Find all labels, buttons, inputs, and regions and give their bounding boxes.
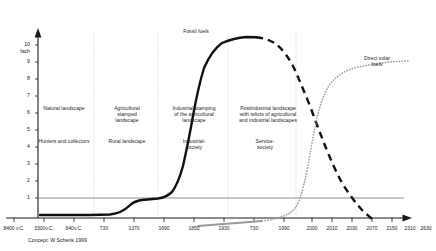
y-tick-label-3: 3 bbox=[16, 160, 30, 166]
x-tick-label-1690: 1690 bbox=[150, 225, 178, 231]
x-tick-label-1930: 1930 bbox=[210, 225, 238, 231]
era-society-rural-landscape: Rural landscape bbox=[97, 138, 157, 144]
era-society-hunters-collectors: Hunters and collectors bbox=[30, 138, 98, 144]
era-society-industrial-l2: society bbox=[163, 144, 225, 150]
y-tick-label-8: 8 bbox=[16, 75, 30, 81]
y-axis-arrow bbox=[35, 28, 42, 38]
x-tick-label-1850: 1850 bbox=[180, 225, 208, 231]
annotation-fossil-fuels: Fossil fuels bbox=[166, 28, 226, 34]
y-tick-label-1: 1 bbox=[16, 194, 30, 200]
era-label-natural-landscape: Natural landscape bbox=[34, 105, 94, 111]
chart-credit: Concept: W Schenk 1999 bbox=[28, 237, 87, 243]
y-tick-label-4: 4 bbox=[16, 143, 30, 149]
x-tick-label-1370: 1370 bbox=[120, 225, 148, 231]
y-tick-label-7: 7 bbox=[16, 92, 30, 98]
y-axis-unit-label: fach bbox=[16, 48, 30, 54]
y-tick-label-9: 9 bbox=[16, 58, 30, 64]
era-label-industrial-l3: landscape bbox=[160, 117, 228, 123]
y-tick-label-10: 10 bbox=[16, 41, 30, 47]
x-tick-label-1990: 1990 bbox=[270, 225, 298, 231]
x-tick-label-730-a: 730 bbox=[90, 225, 118, 231]
x-tick-marks bbox=[14, 218, 392, 222]
x-tick-label-730-b: 730 bbox=[240, 225, 268, 231]
era-society-service-l2: society bbox=[234, 144, 296, 150]
y-tick-label-2: 2 bbox=[16, 177, 30, 183]
x-tick-label-640vc: 640v.C. bbox=[56, 225, 92, 231]
x-tick-label-2630: 2630 bbox=[412, 225, 436, 231]
era-label-agricultural-l3: landscape bbox=[98, 117, 156, 123]
y-tick-label-5: 5 bbox=[16, 126, 30, 132]
era-label-postindustrial-l3: and industrial landscapes bbox=[229, 117, 307, 123]
fossil-fuels-curve-solid bbox=[40, 37, 256, 215]
x-axis-arrow bbox=[403, 215, 413, 222]
annotation-direct-solar-line2: fuels bbox=[349, 61, 405, 67]
y-tick-label-6: 6 bbox=[16, 109, 30, 115]
